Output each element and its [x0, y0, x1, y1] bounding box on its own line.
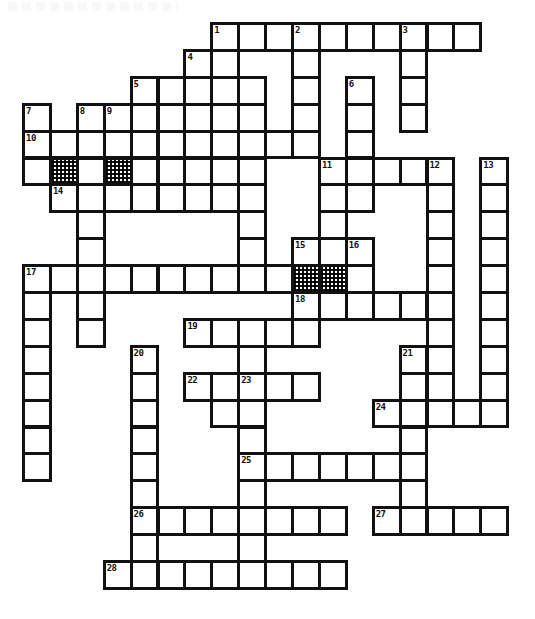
- crossword-cell[interactable]: [130, 560, 160, 590]
- crossword-cell[interactable]: [479, 264, 509, 294]
- crossword-cell[interactable]: [426, 183, 456, 213]
- crossword-cell[interactable]: [210, 157, 240, 187]
- crossword-cell[interactable]: [291, 560, 321, 590]
- crossword-cell[interactable]: [210, 399, 240, 429]
- crossword-cell[interactable]: [76, 183, 106, 213]
- crossword-cell[interactable]: [183, 130, 213, 160]
- crossword-cell[interactable]: [345, 157, 375, 187]
- crossword-cell[interactable]: [291, 452, 321, 482]
- crossword-cell[interactable]: [210, 560, 240, 590]
- crossword-cell[interactable]: [157, 76, 187, 106]
- crossword-cell[interactable]: [157, 130, 187, 160]
- crossword-cell[interactable]: [130, 130, 160, 160]
- crossword-cell[interactable]: [399, 426, 429, 456]
- crossword-cell[interactable]: [479, 291, 509, 321]
- crossword-cell[interactable]: [237, 103, 267, 133]
- crossword-cell[interactable]: [426, 291, 456, 321]
- crossword-cell[interactable]: 1: [210, 22, 240, 52]
- crossword-cell[interactable]: [237, 345, 267, 375]
- crossword-cell[interactable]: [237, 479, 267, 509]
- crossword-cell[interactable]: [399, 372, 429, 402]
- crossword-cell[interactable]: [479, 210, 509, 240]
- crossword-cell[interactable]: [183, 76, 213, 106]
- crossword-cell[interactable]: 6: [345, 76, 375, 106]
- crossword-cell[interactable]: [237, 210, 267, 240]
- crossword-cell[interactable]: [452, 506, 482, 536]
- crossword-cell[interactable]: [426, 237, 456, 267]
- crossword-cell[interactable]: [345, 291, 375, 321]
- crossword-cell[interactable]: [210, 183, 240, 213]
- crossword-cell[interactable]: 15: [291, 237, 321, 267]
- crossword-cell[interactable]: 27: [372, 506, 402, 536]
- crossword-cell[interactable]: 22: [183, 372, 213, 402]
- crossword-cell[interactable]: 4: [183, 49, 213, 79]
- crossword-cell[interactable]: 23: [237, 372, 267, 402]
- crossword-cell[interactable]: [372, 22, 402, 52]
- crossword-cell[interactable]: [264, 130, 294, 160]
- crossword-cell[interactable]: [237, 157, 267, 187]
- crossword-cell[interactable]: [426, 399, 456, 429]
- crossword-cell[interactable]: 5: [130, 76, 160, 106]
- crossword-cell[interactable]: [399, 399, 429, 429]
- crossword-cell[interactable]: [210, 103, 240, 133]
- crossword-cell[interactable]: [426, 264, 456, 294]
- crossword-cell[interactable]: [479, 318, 509, 348]
- crossword-cell[interactable]: 13: [479, 157, 509, 187]
- crossword-cell[interactable]: [130, 479, 160, 509]
- crossword-cell[interactable]: [157, 103, 187, 133]
- crossword-cell[interactable]: 11: [318, 157, 348, 187]
- crossword-cell[interactable]: [318, 506, 348, 536]
- crossword-cell[interactable]: 21: [399, 345, 429, 375]
- crossword-cell[interactable]: 14: [49, 183, 79, 213]
- crossword-cell[interactable]: [264, 22, 294, 52]
- crossword-cell[interactable]: [210, 130, 240, 160]
- crossword-cell[interactable]: 28: [103, 560, 133, 590]
- crossword-cell[interactable]: [130, 264, 160, 294]
- crossword-cell[interactable]: 20: [130, 345, 160, 375]
- crossword-cell[interactable]: [76, 318, 106, 348]
- crossword-cell[interactable]: [237, 506, 267, 536]
- crossword-cell[interactable]: 10: [22, 130, 52, 160]
- crossword-cell[interactable]: [76, 291, 106, 321]
- crossword-cell[interactable]: [318, 237, 348, 267]
- crossword-cell[interactable]: [291, 49, 321, 79]
- crossword-cell[interactable]: [345, 264, 375, 294]
- crossword-cell[interactable]: [399, 76, 429, 106]
- crossword-cell[interactable]: [291, 130, 321, 160]
- crossword-cell[interactable]: [426, 372, 456, 402]
- crossword-cell[interactable]: [399, 291, 429, 321]
- crossword-cell[interactable]: [76, 210, 106, 240]
- crossword-cell[interactable]: [264, 506, 294, 536]
- crossword-cell[interactable]: [210, 372, 240, 402]
- crossword-cell[interactable]: [183, 560, 213, 590]
- crossword-cell[interactable]: [210, 49, 240, 79]
- crossword-cell[interactable]: [291, 318, 321, 348]
- crossword-cell[interactable]: [130, 157, 160, 187]
- crossword-cell[interactable]: [399, 157, 429, 187]
- crossword-cell[interactable]: [372, 452, 402, 482]
- crossword-cell[interactable]: [291, 76, 321, 106]
- crossword-cell[interactable]: [49, 130, 79, 160]
- crossword-cell[interactable]: [345, 103, 375, 133]
- crossword-cell[interactable]: [345, 130, 375, 160]
- crossword-cell[interactable]: 3: [399, 22, 429, 52]
- crossword-cell[interactable]: [345, 183, 375, 213]
- crossword-cell[interactable]: [264, 560, 294, 590]
- crossword-cell[interactable]: [22, 426, 52, 456]
- crossword-cell[interactable]: [372, 291, 402, 321]
- crossword-cell[interactable]: [399, 103, 429, 133]
- crossword-cell[interactable]: [183, 506, 213, 536]
- crossword-cell[interactable]: [264, 452, 294, 482]
- crossword-cell[interactable]: [237, 130, 267, 160]
- crossword-cell[interactable]: [22, 157, 52, 187]
- crossword-cell[interactable]: [103, 183, 133, 213]
- crossword-cell[interactable]: 24: [372, 399, 402, 429]
- crossword-cell[interactable]: [22, 345, 52, 375]
- crossword-cell[interactable]: [318, 22, 348, 52]
- crossword-cell[interactable]: [264, 372, 294, 402]
- crossword-cell[interactable]: [318, 183, 348, 213]
- crossword-cell[interactable]: 7: [22, 103, 52, 133]
- crossword-cell[interactable]: [318, 560, 348, 590]
- crossword-cell[interactable]: [237, 237, 267, 267]
- crossword-cell[interactable]: [183, 157, 213, 187]
